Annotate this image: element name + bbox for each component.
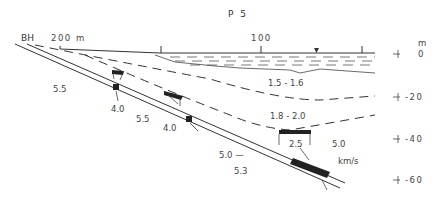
svg-text:0: 0	[418, 49, 425, 59]
borehole-label: BH	[21, 33, 34, 43]
velocity-label: 5.5	[53, 84, 67, 94]
depth-unit: m	[418, 38, 426, 48]
fracture-marker-2	[186, 116, 192, 122]
svg-text:-60: -60	[405, 175, 423, 185]
fracture-marker-1	[113, 84, 119, 90]
water-level-marker-icon	[314, 48, 319, 53]
velocity-unit: km/s	[338, 156, 359, 166]
depth-tick-20: -20	[393, 92, 423, 102]
refractor-boundary-2	[85, 55, 375, 130]
seismic-profile-diagram: P 5 BH 200 m 100	[0, 0, 442, 198]
velocity-label: 4.0	[163, 123, 177, 133]
velocity-label: 4.0	[111, 104, 125, 114]
distance-tick-200: 200 m	[51, 33, 86, 43]
depth-tick-60: -60	[393, 175, 423, 185]
depth-tick-40: -40	[393, 134, 423, 144]
velocity-label: 5.0	[332, 139, 346, 149]
velocity-label: 2.5	[289, 139, 303, 149]
low-velocity-bracket-2	[164, 91, 183, 106]
depth-tick-0: 0	[393, 49, 425, 59]
depth-axis: m 0 -20 -40 -60	[393, 38, 426, 185]
velocity-label: 1.8 - 2.0	[270, 111, 306, 121]
profile-title: P 5	[228, 9, 248, 19]
svg-text:-20: -20	[405, 92, 423, 102]
distance-tick-100: 100	[251, 33, 272, 43]
water-body	[155, 55, 375, 73]
velocity-label: 5.3	[234, 166, 248, 176]
velocity-label: 1.5 - 1.6	[268, 78, 304, 88]
low-velocity-bracket-1	[112, 70, 124, 80]
surface-line	[60, 46, 375, 53]
velocity-label: 5.5	[136, 114, 150, 124]
velocity-label: 5.0 —	[219, 150, 244, 160]
svg-text:-40: -40	[405, 134, 423, 144]
